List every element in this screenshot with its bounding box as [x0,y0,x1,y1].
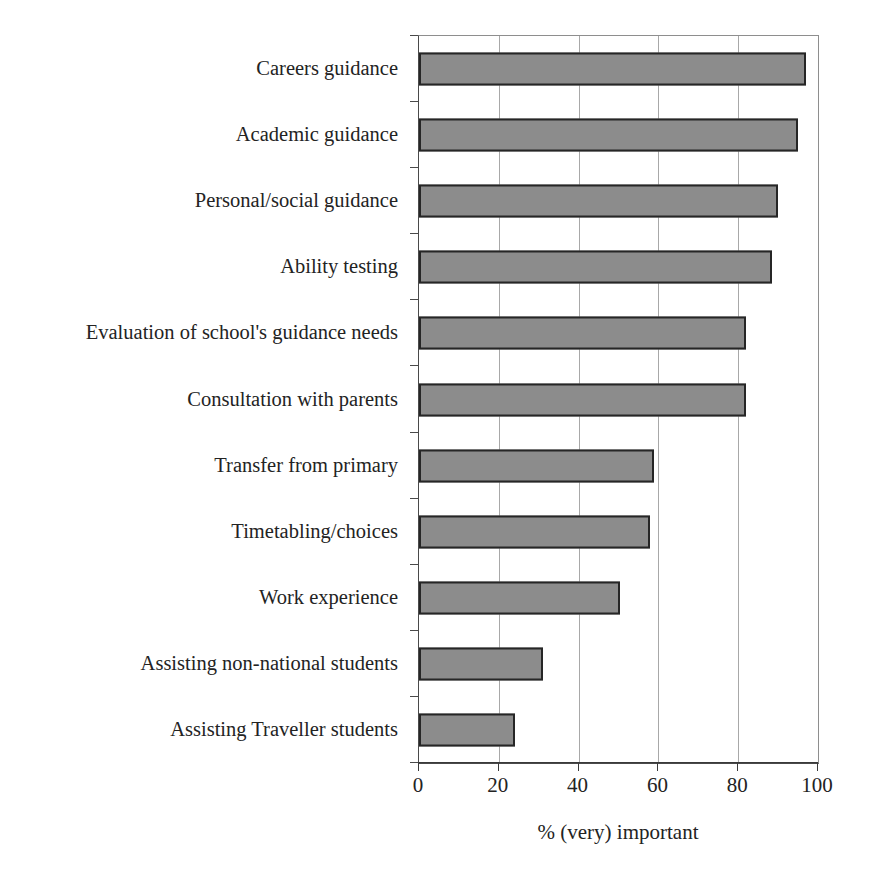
x-axis-tick [578,762,579,771]
y-axis-tick [410,35,418,36]
y-axis-tick [410,432,418,433]
category-label: Ability testing [0,256,398,277]
y-axis-tick [410,498,418,499]
bar [419,449,654,482]
y-axis-tick [410,630,418,631]
category-label: Evaluation of school's guidance needs [0,322,398,343]
category-axis: Careers guidanceAcademic guidancePersona… [0,35,408,762]
x-axis-tick-label: 100 [801,775,833,796]
x-axis-title: % (very) important [418,820,818,845]
y-axis-tick [410,365,418,366]
x-axis-tick-labels: 020406080100 [418,775,818,803]
x-axis-tick [737,762,738,771]
category-label: Timetabling/choices [0,520,398,541]
plot-area [418,35,819,764]
category-label: Personal/social guidance [0,190,398,211]
x-axis-tick [817,762,818,771]
y-axis-tick [410,233,418,234]
bar [419,317,746,350]
category-label: Transfer from primary [0,454,398,475]
y-axis-tick [410,564,418,565]
category-label: Assisting Traveller students [0,719,398,740]
category-label: Work experience [0,587,398,608]
y-axis-tick [410,696,418,697]
bar [419,119,798,152]
category-label: Academic guidance [0,124,398,145]
x-axis-tick-label: 0 [413,775,424,796]
x-axis-tick-label: 20 [487,775,508,796]
category-label: Careers guidance [0,58,398,79]
x-axis-tick-label: 40 [567,775,588,796]
bar [419,515,650,548]
bar-chart-figure: Careers guidanceAcademic guidancePersona… [0,0,871,883]
x-axis-tick [418,762,419,771]
y-axis-ticks [410,35,418,762]
bar [419,53,806,86]
y-axis-tick [410,167,418,168]
bars-layer [419,36,818,763]
y-axis-tick [410,299,418,300]
y-axis-tick [410,101,418,102]
x-axis-tick-label: 80 [727,775,748,796]
bar [419,581,620,614]
bar [419,251,772,284]
x-axis-line [418,762,818,763]
x-axis-tick [498,762,499,771]
category-label: Consultation with parents [0,388,398,409]
category-label: Assisting non-national students [0,653,398,674]
bar [419,647,543,680]
y-axis-tick [410,762,418,763]
bar [419,185,778,218]
x-axis-tick-label: 60 [647,775,668,796]
bar [419,383,746,416]
x-axis-tick [657,762,658,771]
bar [419,713,515,746]
